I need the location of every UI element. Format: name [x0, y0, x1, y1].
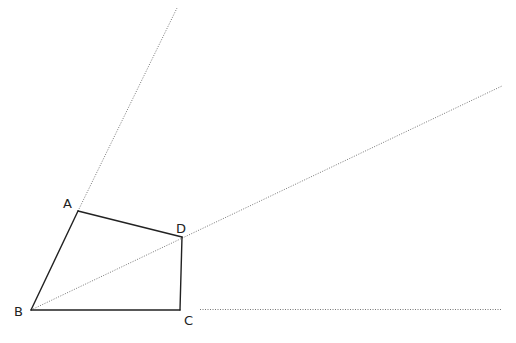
label-a: A: [63, 196, 72, 211]
geometry-diagram: A B C D: [0, 0, 516, 343]
segment-da: [78, 211, 182, 237]
segment-cd: [180, 237, 182, 310]
label-d: D: [176, 221, 186, 236]
ray-ba: [78, 8, 177, 211]
label-c: C: [184, 313, 193, 328]
label-b: B: [14, 304, 23, 319]
ray-bd: [31, 86, 502, 310]
segment-ab: [31, 211, 78, 310]
